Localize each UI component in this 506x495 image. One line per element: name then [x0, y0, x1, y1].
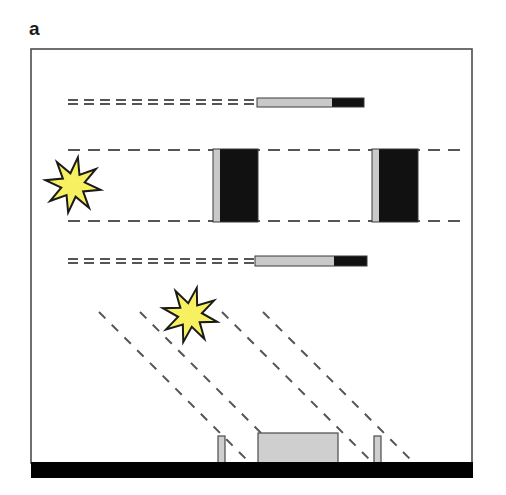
shutter-bar-left	[213, 149, 258, 222]
horizontal-bar-black-segment	[334, 256, 367, 266]
figure-canvas: a	[0, 0, 506, 495]
light-source-lower	[163, 288, 217, 342]
block-center	[258, 433, 338, 463]
oblique-dashed-ray	[99, 312, 252, 465]
light-source-upper	[45, 157, 100, 212]
post-right	[374, 436, 381, 463]
shutter-gray-edge	[213, 149, 220, 222]
shutter-bar-right	[372, 149, 418, 222]
shutter-gray-edge	[372, 149, 379, 222]
ground-object-group	[218, 433, 381, 463]
horizontal-bar-gray-segment	[257, 98, 332, 107]
post-left	[218, 436, 225, 463]
light-source-group	[45, 157, 217, 342]
ground-bar	[31, 462, 473, 478]
figure-frame	[31, 49, 472, 463]
ray-channel-middle	[68, 149, 466, 222]
shutter-black-body	[220, 149, 258, 222]
ray-row-top	[68, 98, 364, 107]
ray-row-bottom	[68, 256, 367, 266]
schematic-diagram	[0, 0, 506, 495]
horizontal-bar-black-segment	[332, 98, 364, 107]
horizontal-bar-gray-segment	[255, 256, 334, 266]
shutter-black-body	[379, 149, 418, 222]
